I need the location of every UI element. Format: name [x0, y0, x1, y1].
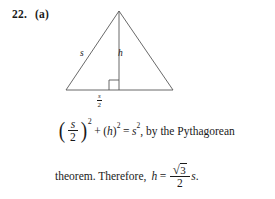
- half-base-numerator: s: [97, 93, 102, 101]
- h-exponent: 2: [117, 121, 121, 130]
- triangle-diagram-svg: [55, 4, 190, 112]
- radical-sign: √: [173, 163, 180, 176]
- s-over-2-fraction: s 2: [67, 118, 79, 143]
- textbook-solution-page: 22.(a) s h s 2 ( s 2 ) 2 +: [0, 0, 275, 199]
- sentence-period: .: [196, 170, 199, 182]
- problem-header: 22.(a): [12, 8, 49, 20]
- problem-part-label: (a): [35, 8, 49, 20]
- problem-number: 22.: [12, 8, 27, 20]
- pythagorean-equation-line: ( s 2 ) 2 + ( h ) 2 = s 2 , by the Pytha…: [58, 118, 235, 143]
- half-base-fraction-label: s 2: [97, 93, 102, 109]
- pythagorean-trailing-text: by the Pythagorean: [146, 125, 235, 137]
- conclusion-equation-line: theorem. Therefore, h = √ 3 2 s .: [55, 163, 199, 189]
- comma-separator: ,: [140, 125, 143, 137]
- triangle-figure: s h s 2: [55, 4, 190, 112]
- side-length-label: s: [80, 48, 84, 58]
- square-root-icon: √ 3: [173, 163, 188, 176]
- fraction-denominator: 2: [67, 131, 79, 143]
- altitude-label: h: [118, 48, 123, 58]
- conclusion-leading-text: theorem. Therefore,: [55, 170, 146, 182]
- fraction-numerator: s: [68, 118, 78, 131]
- paren-exponent: 2: [88, 117, 92, 126]
- right-angle-marker-icon: [109, 80, 119, 90]
- triangle-right-side: [119, 11, 173, 90]
- conclusion-equals-operator: =: [160, 170, 167, 182]
- plus-operator: +: [94, 125, 101, 137]
- rhs-exponent: 2: [136, 121, 140, 130]
- sqrt3-over-2-fraction: √ 3 2: [170, 163, 191, 189]
- radical-fraction-denominator: 2: [174, 177, 186, 189]
- half-base-denominator: 2: [97, 101, 102, 109]
- radical-numerator: √ 3: [170, 163, 191, 177]
- open-paren: (: [59, 120, 65, 140]
- close-paren: ): [81, 120, 87, 140]
- radicand-value: 3: [180, 163, 188, 176]
- triangle-left-side: [66, 11, 119, 90]
- conclusion-h-variable: h: [151, 170, 157, 182]
- equals-operator: =: [123, 125, 130, 137]
